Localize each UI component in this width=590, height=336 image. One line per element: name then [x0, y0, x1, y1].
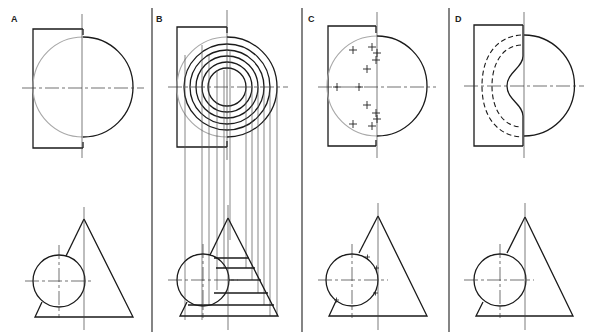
panel-a-plan [25, 207, 133, 330]
panel-a-elevation [22, 14, 144, 158]
technical-drawing [0, 0, 590, 336]
panel-d-elevation [464, 12, 584, 158]
panel-c-intersection-points [333, 43, 381, 130]
panel-b-projectors [185, 45, 277, 320]
panel-c-plan [318, 203, 427, 330]
panel-b-plan [168, 205, 278, 330]
panel-d-plan [464, 203, 573, 330]
panel-c-elevation [318, 12, 436, 158]
